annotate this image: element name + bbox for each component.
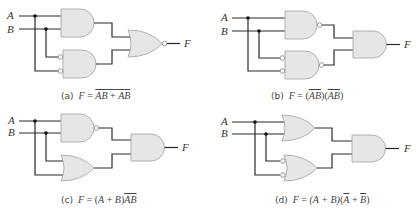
panel-b: A B F (b) F = (AB)(AB) [210,0,419,108]
output-label-f: F [184,38,191,49]
nand-gate-icon [285,51,319,79]
or-gate-icon [61,155,94,181]
caption-d: (d) F = (A + B)(A + B) [275,194,370,206]
and-gate-icon [61,9,94,37]
or-gate-icon [284,155,317,181]
and-gate-icon [63,50,96,78]
panel-a: A B F (a) F = AB + AB [0,0,210,108]
output-label-f: F [182,142,189,153]
nand-gate-icon [61,114,94,142]
output-label-f: F [404,39,411,50]
and-gate-icon [352,135,386,162]
caption-a: (a) F = AB + AB [61,90,130,102]
or-gate-icon [282,115,315,141]
caption-c: (c) F = (A + B)AB [61,194,137,206]
and-gate-icon [353,31,386,58]
nor-gate-icon [128,30,162,57]
nand-gate-icon [285,11,317,39]
panel-d: A B F (d) F = (A + B)(A + B) [210,108,419,216]
output-label-f: F [404,143,411,154]
and-gate-icon [131,134,165,161]
panel-c: A B F (c) F = (A + B)AB [0,108,210,216]
caption-b: (b) F = (AB)(AB) [271,90,343,102]
